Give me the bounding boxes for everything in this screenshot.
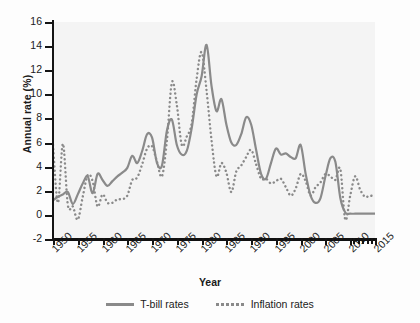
y-tick-16 xyxy=(45,22,53,24)
y-tick-12 xyxy=(45,70,53,72)
y-tick-8 xyxy=(45,118,53,120)
y-tick-label-0: 0 xyxy=(12,208,42,220)
series-line-t-bill-rates xyxy=(53,45,375,214)
legend-label-inflation-rates: Inflation rates xyxy=(251,298,314,310)
chart-legend: T-bill rates Inflation rates xyxy=(0,298,420,310)
y-tick-label-12: 12 xyxy=(12,63,42,75)
y-tick-10 xyxy=(45,94,53,96)
y-axis-spine xyxy=(52,20,54,240)
chart-lines xyxy=(53,22,375,239)
x-minor-tick-3 xyxy=(367,238,369,244)
x-minor-tick-4 xyxy=(371,238,373,244)
y-tick--2 xyxy=(45,239,53,241)
y-tick-label-2: 2 xyxy=(12,184,42,196)
chart-figure: Annual rate (%) -20246810121416 19501955… xyxy=(0,0,420,323)
y-tick-label--2: -2 xyxy=(12,232,42,244)
series-line-inflation-rates xyxy=(53,52,375,220)
y-tick-14 xyxy=(45,46,53,48)
x-minor-tick-2 xyxy=(362,238,364,244)
legend-label-t-bill-rates: T-bill rates xyxy=(140,298,188,310)
y-tick-label-16: 16 xyxy=(12,15,42,27)
x-minor-tick-0 xyxy=(353,238,355,244)
y-tick-2 xyxy=(45,191,53,193)
y-tick-label-10: 10 xyxy=(12,87,42,99)
y-tick-0 xyxy=(45,215,53,217)
y-tick-label-4: 4 xyxy=(12,160,42,172)
y-tick-6 xyxy=(45,143,53,145)
y-tick-label-6: 6 xyxy=(12,136,42,148)
x-minor-tick-1 xyxy=(358,238,360,244)
plot-area xyxy=(53,22,375,239)
legend-item-t-bill-rates: T-bill rates xyxy=(106,298,188,310)
y-tick-label-8: 8 xyxy=(12,111,42,123)
legend-item-inflation-rates: Inflation rates xyxy=(215,298,314,310)
y-tick-label-14: 14 xyxy=(12,39,42,51)
legend-solid-line-icon xyxy=(106,303,134,306)
x-axis-title: Year xyxy=(0,276,420,288)
y-tick-4 xyxy=(45,167,53,169)
legend-dotted-line-icon xyxy=(215,303,245,306)
